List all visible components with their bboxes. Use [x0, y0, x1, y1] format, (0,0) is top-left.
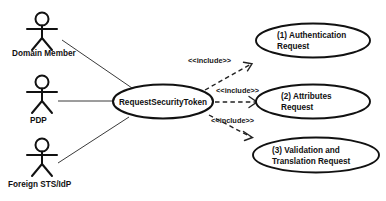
usecase-label-line2: Translation Request	[272, 157, 351, 166]
actor-leg-right-icon	[42, 101, 52, 113]
include-arrowhead-icon	[244, 132, 253, 141]
usecase-label-line1: (1) Authentication	[277, 31, 346, 40]
include-stereotype-label: <<include>>	[211, 116, 255, 125]
include-relationship-attributes[interactable]: <<include>>	[215, 86, 260, 108]
include-relationship-validation[interactable]: <<include>>	[209, 115, 255, 141]
actor-label-foreign-sts-idp: Foreign STS/IdP	[8, 180, 72, 189]
usecase-label-line1: (2) Attributes	[281, 92, 332, 101]
usecase-ellipse-shape	[253, 138, 379, 173]
actor-foreign-sts-idp[interactable]: Foreign STS/IdP	[8, 139, 72, 190]
usecase-label-line2: Request	[277, 42, 310, 51]
usecase-label-line1: (3) Validation and	[272, 146, 340, 155]
actor-label-domain-member: Domain Member	[12, 49, 77, 58]
usecase-validation-translation-request[interactable]: (3) Validation and Translation Request	[253, 138, 379, 173]
usecase-attributes-request[interactable]: (2) Attributes Request	[256, 85, 370, 119]
diagram-canvas: Domain Member PDP Foreign STS/IdP <<incl…	[0, 0, 386, 201]
uml-use-case-diagram: Domain Member PDP Foreign STS/IdP <<incl…	[0, 0, 386, 201]
include-relationship-authentication[interactable]: <<include>>	[188, 56, 252, 90]
usecase-label-line2: Request	[281, 103, 314, 112]
usecase-label-request-security-token: RequestSecurityToken	[119, 98, 207, 107]
actor-head-icon	[36, 76, 49, 89]
actor-leg-left-icon	[32, 164, 42, 176]
include-stereotype-label: <<include>>	[188, 56, 232, 65]
usecase-request-security-token[interactable]: RequestSecurityToken	[113, 85, 213, 119]
actor-leg-left-icon	[32, 101, 42, 113]
include-stereotype-label: <<include>>	[216, 86, 260, 95]
actor-head-icon	[36, 139, 49, 152]
usecase-ellipse-shape	[256, 24, 370, 58]
association-foreign-sts	[58, 117, 129, 163]
actor-pdp[interactable]: PDP	[27, 76, 57, 126]
actor-domain-member[interactable]: Domain Member	[12, 13, 77, 59]
association-domain-member	[62, 40, 132, 88]
actor-leg-right-icon	[42, 164, 52, 176]
usecase-ellipse-shape	[256, 85, 370, 119]
actor-label-pdp: PDP	[30, 116, 47, 125]
actor-head-icon	[36, 13, 49, 26]
usecase-authentication-request[interactable]: (1) Authentication Request	[256, 24, 370, 58]
